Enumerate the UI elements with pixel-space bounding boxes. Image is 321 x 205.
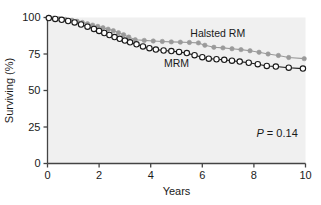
x-tick-label: 4 — [148, 169, 154, 181]
data-point-mrm — [200, 55, 205, 60]
data-point-mrm — [59, 17, 64, 22]
data-point-halsted-rm — [230, 47, 234, 51]
data-point-mrm — [134, 42, 139, 47]
y-tick-label: 75 — [28, 48, 40, 60]
x-axis-title: Years — [163, 185, 191, 197]
data-point-halsted-rm — [248, 49, 252, 53]
survival-chart: 02550751000246810 YearsSurviving (%)Hals… — [0, 0, 321, 205]
data-point-mrm — [214, 57, 219, 62]
data-point-halsted-rm — [111, 28, 115, 32]
y-tick-label: 0 — [34, 157, 40, 169]
data-point-mrm — [273, 64, 278, 69]
x-tick-label: 8 — [251, 169, 257, 181]
data-point-mrm — [147, 45, 152, 50]
y-tick-label: 100 — [22, 11, 40, 23]
data-point-halsted-rm — [121, 33, 125, 37]
data-point-mrm — [206, 56, 211, 61]
data-point-halsted-rm — [212, 45, 216, 49]
data-point-halsted-rm — [221, 46, 225, 50]
data-point-mrm — [65, 18, 70, 23]
data-point-halsted-rm — [169, 40, 173, 44]
plot-area — [48, 18, 306, 164]
data-point-mrm — [192, 52, 197, 57]
data-point-mrm — [102, 30, 107, 35]
data-point-mrm — [127, 40, 132, 45]
p-value-number: = 0.14 — [264, 127, 298, 139]
figure-container: 02550751000246810 YearsSurviving (%)Hals… — [0, 0, 321, 205]
data-point-halsted-rm — [178, 40, 182, 44]
data-point-halsted-rm — [257, 50, 261, 54]
data-point-mrm — [184, 50, 189, 55]
y-axis-title: Surviving (%) — [3, 58, 15, 123]
p-value-annotation: P = 0.14 — [256, 127, 297, 139]
x-tick-label: 0 — [44, 169, 50, 181]
x-tick-label: 6 — [199, 169, 205, 181]
data-point-halsted-rm — [151, 39, 155, 43]
plot-background — [48, 18, 306, 164]
x-tick-label: 2 — [96, 169, 102, 181]
data-point-mrm — [255, 62, 260, 67]
data-point-mrm — [46, 15, 51, 20]
data-point-halsted-rm — [187, 40, 191, 44]
data-point-mrm — [112, 34, 117, 39]
data-point-mrm — [229, 58, 234, 63]
data-point-halsted-rm — [160, 39, 164, 43]
data-point-halsted-rm — [142, 38, 146, 42]
y-tick-label: 50 — [28, 84, 40, 96]
data-point-mrm — [91, 26, 96, 31]
mrm-label: MRM — [164, 57, 189, 69]
data-point-mrm — [117, 36, 122, 41]
data-point-mrm — [300, 66, 305, 71]
data-point-mrm — [78, 22, 83, 27]
y-tick-label: 25 — [28, 121, 40, 133]
data-point-mrm — [246, 60, 251, 65]
data-point-halsted-rm — [116, 30, 120, 34]
data-point-mrm — [153, 47, 158, 52]
data-point-mrm — [122, 38, 127, 43]
data-point-mrm — [222, 57, 227, 62]
data-point-mrm — [169, 48, 174, 53]
data-point-mrm — [176, 49, 181, 54]
data-point-halsted-rm — [203, 43, 207, 47]
data-point-mrm — [96, 28, 101, 33]
data-point-halsted-rm — [287, 55, 291, 59]
data-point-halsted-rm — [266, 52, 270, 56]
data-point-mrm — [161, 48, 166, 53]
data-point-mrm — [72, 20, 77, 25]
data-point-mrm — [107, 32, 112, 37]
data-point-halsted-rm — [276, 53, 280, 57]
data-point-halsted-rm — [239, 47, 243, 51]
data-point-halsted-rm — [302, 56, 306, 60]
data-point-mrm — [237, 59, 242, 64]
data-point-mrm — [264, 63, 269, 68]
data-point-halsted-rm — [196, 41, 200, 45]
data-point-mrm — [140, 44, 145, 49]
x-tick-label: 10 — [299, 169, 311, 181]
halsted-rm-label: Halsted RM — [190, 27, 245, 39]
data-point-mrm — [286, 65, 291, 70]
data-point-mrm — [85, 24, 90, 29]
data-point-mrm — [53, 16, 58, 21]
